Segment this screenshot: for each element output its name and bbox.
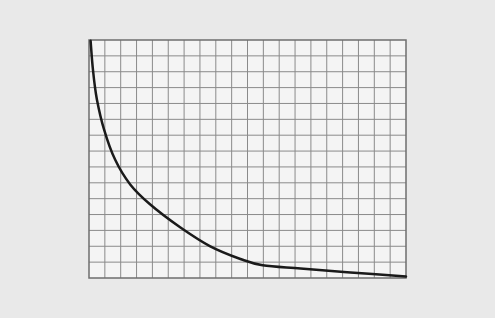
line-chart	[0, 0, 495, 318]
chart-area	[0, 0, 495, 318]
grid-lines	[89, 40, 406, 278]
